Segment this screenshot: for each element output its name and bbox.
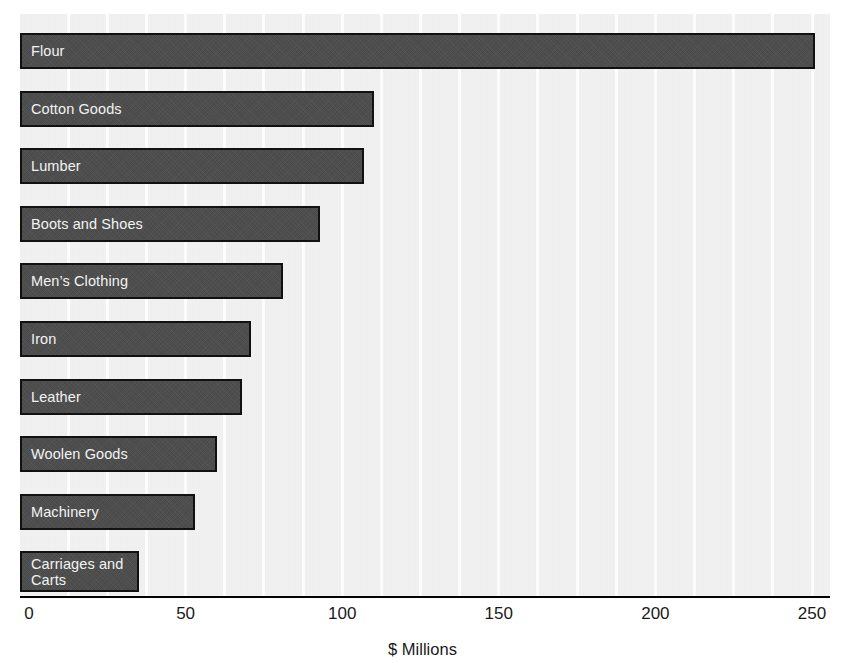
x-tick-label: 50: [176, 604, 195, 624]
x-tick-label: 200: [641, 604, 669, 624]
bar-category-label: Boots and Shoes: [22, 216, 143, 232]
bar: Machinery: [20, 494, 195, 530]
bar-category-label: Woolen Goods: [22, 446, 128, 462]
x-axis-tick-labels: 050100150200250: [0, 604, 845, 630]
bar-category-label: Leather: [22, 389, 81, 405]
x-tick-label: 0: [24, 604, 33, 624]
x-tick-label: 150: [485, 604, 513, 624]
bar: Iron: [20, 321, 251, 357]
bar-category-label: Lumber: [22, 158, 81, 174]
bar-category-label: Cotton Goods: [22, 101, 122, 117]
x-tick-label: 100: [328, 604, 356, 624]
bar-category-label: Carriages and Carts: [22, 556, 123, 588]
bar: Cotton Goods: [20, 91, 374, 127]
bar: Boots and Shoes: [20, 206, 320, 242]
x-axis-line: [20, 596, 830, 598]
x-axis-title: $ Millions: [0, 640, 845, 659]
bar: Carriages and Carts: [20, 551, 139, 592]
bar: Men’s Clothing: [20, 263, 283, 299]
bar: Leather: [20, 379, 242, 415]
plot-area: FlourCotton GoodsLumberBoots and ShoesMe…: [20, 14, 830, 596]
bar-category-label: Machinery: [22, 504, 99, 520]
bar-category-label: Flour: [22, 43, 65, 59]
bar: Flour: [20, 33, 815, 69]
bar-series: FlourCotton GoodsLumberBoots and ShoesMe…: [20, 14, 830, 596]
bar-category-label: Men’s Clothing: [22, 273, 128, 289]
x-tick-label: 250: [798, 604, 826, 624]
bar: Woolen Goods: [20, 436, 217, 472]
bar-texture: [22, 35, 813, 67]
bar: Lumber: [20, 148, 364, 184]
bar-category-label: Iron: [22, 331, 56, 347]
bar-chart-figure: FlourCotton GoodsLumberBoots and ShoesMe…: [0, 0, 845, 672]
